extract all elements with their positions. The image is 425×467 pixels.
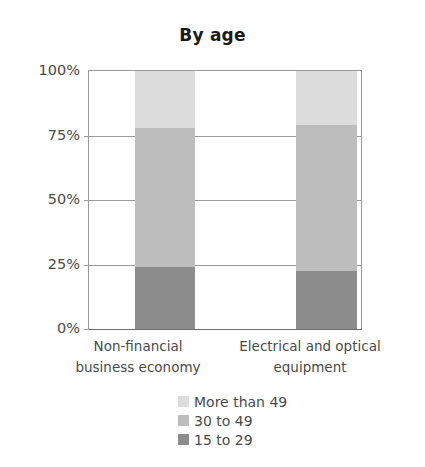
y-axis-labels: 100% 75% 50% 25% 0% bbox=[0, 70, 80, 328]
chart-title: By age bbox=[0, 25, 425, 45]
legend-item-30-to-49[interactable]: 30 to 49 bbox=[178, 411, 287, 430]
bar-segment-15-to-29[interactable] bbox=[296, 271, 357, 329]
bar-segment-30-to-49[interactable] bbox=[296, 125, 357, 271]
bar-segment-more-than-49[interactable] bbox=[296, 71, 357, 125]
legend-swatch-icon bbox=[178, 415, 189, 426]
legend-label: More than 49 bbox=[194, 394, 287, 410]
bar-electrical-and-optical-equipment[interactable] bbox=[296, 71, 357, 329]
chart-container: By age 100% 75% 50% 25% 0% Non-financia bbox=[0, 0, 425, 467]
bar-segment-more-than-49[interactable] bbox=[135, 71, 195, 128]
y-axis-tick-label-75: 75% bbox=[4, 127, 80, 143]
x-axis-label-non-financial-business-economy: Non-financial business economy bbox=[64, 336, 212, 378]
y-tick-50 bbox=[84, 200, 89, 201]
legend-swatch-icon bbox=[178, 396, 189, 407]
y-axis-tick-label-25: 25% bbox=[4, 256, 80, 272]
legend-label: 30 to 49 bbox=[194, 413, 253, 429]
y-axis-tick-label-50: 50% bbox=[4, 191, 80, 207]
x-axis-labels: Non-financial business economy Electrica… bbox=[88, 336, 360, 392]
legend-label: 15 to 29 bbox=[194, 432, 253, 448]
x-axis-label-line-1: Electrical and optical bbox=[236, 336, 384, 357]
bar-non-financial-business-economy[interactable] bbox=[135, 71, 195, 329]
x-axis-label-line-1: Non-financial bbox=[64, 336, 212, 357]
bar-segment-15-to-29[interactable] bbox=[135, 267, 195, 329]
y-axis-tick-label-100: 100% bbox=[4, 62, 80, 78]
legend-item-more-than-49[interactable]: More than 49 bbox=[178, 392, 287, 411]
y-axis-tick-label-0: 0% bbox=[4, 320, 80, 336]
legend-item-15-to-29[interactable]: 15 to 29 bbox=[178, 430, 287, 449]
x-axis-label-line-2: equipment bbox=[236, 357, 384, 378]
x-axis-label-electrical-and-optical-equipment: Electrical and optical equipment bbox=[236, 336, 384, 378]
chart-legend: More than 49 30 to 49 15 to 29 bbox=[178, 392, 287, 449]
x-axis-label-line-2: business economy bbox=[64, 357, 212, 378]
y-tick-25 bbox=[84, 265, 89, 266]
y-tick-75 bbox=[84, 136, 89, 137]
plot-area bbox=[88, 70, 362, 330]
y-tick-0 bbox=[84, 329, 89, 330]
legend-swatch-icon bbox=[178, 434, 189, 445]
bar-segment-30-to-49[interactable] bbox=[135, 128, 195, 267]
